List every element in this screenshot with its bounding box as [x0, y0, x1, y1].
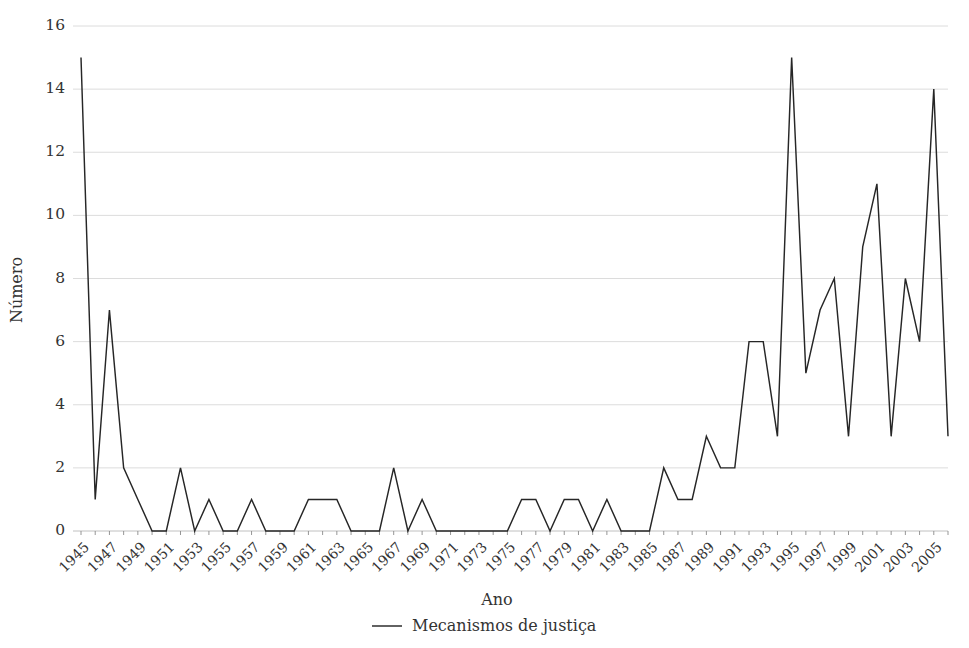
x-tick-label: 1959 — [255, 539, 292, 576]
x-tick-label: 1975 — [482, 539, 519, 576]
x-tick-label: 1973 — [454, 539, 491, 576]
y-axis-tick-labels: 0246810121416 — [45, 16, 65, 539]
x-tick-label: 1955 — [198, 539, 235, 576]
x-tick-label: 1947 — [84, 539, 121, 576]
x-tick-label: 1987 — [653, 539, 690, 576]
x-tick-label: 1961 — [283, 539, 320, 576]
y-tick-label: 6 — [55, 332, 65, 350]
y-tick-label: 14 — [45, 79, 65, 97]
x-tick-label: 1995 — [766, 539, 803, 576]
y-tick-label: 10 — [45, 205, 65, 223]
x-tick-label: 1951 — [141, 539, 178, 576]
x-axis-tick-labels: 1945194719491951195319551957195919611963… — [56, 539, 945, 576]
data-line-mecanismos-de-justica — [81, 58, 948, 531]
x-tick-label: 1991 — [709, 539, 746, 576]
x-tick-label: 1999 — [823, 539, 860, 576]
x-tick-label: 2001 — [852, 539, 889, 576]
chart-container: 0246810121416 19451947194919511953195519… — [0, 0, 969, 648]
x-tick-label: 1983 — [596, 539, 633, 576]
x-tick-label: 1957 — [226, 539, 263, 576]
x-tick-label: 1993 — [738, 539, 775, 576]
y-tick-label: 16 — [45, 16, 65, 34]
x-tick-label: 1977 — [510, 539, 547, 576]
y-tick-label: 12 — [45, 142, 65, 160]
x-tick-label: 1989 — [681, 539, 718, 576]
x-tick-label: 1981 — [567, 539, 604, 576]
x-tick-label: 2003 — [880, 539, 917, 576]
x-tick-label: 1979 — [539, 539, 576, 576]
x-tick-label: 1967 — [368, 539, 405, 576]
y-tick-label: 4 — [55, 395, 65, 413]
x-tick-label: 1963 — [311, 539, 348, 576]
legend: Mecanismos de justiça — [372, 616, 597, 635]
x-axis-tick-marks — [81, 531, 948, 535]
data-series-group — [81, 58, 948, 531]
x-axis-title: Ano — [480, 590, 513, 609]
y-tick-label: 2 — [55, 458, 65, 476]
x-tick-label: 1997 — [795, 539, 832, 576]
x-tick-label: 1985 — [624, 539, 661, 576]
x-tick-label: 1965 — [340, 539, 377, 576]
x-tick-label: 1953 — [169, 539, 206, 576]
x-tick-label: 1949 — [112, 539, 149, 576]
grid-lines — [73, 26, 948, 531]
x-tick-label: 2005 — [908, 539, 945, 576]
y-tick-label: 0 — [55, 521, 65, 539]
line-chart: 0246810121416 19451947194919511953195519… — [0, 0, 969, 648]
legend-label: Mecanismos de justiça — [412, 616, 597, 635]
x-tick-label: 1945 — [56, 539, 93, 576]
y-tick-label: 8 — [55, 269, 65, 287]
x-tick-label: 1969 — [397, 539, 434, 576]
y-axis-title: Número — [7, 257, 26, 323]
x-tick-label: 1971 — [425, 539, 462, 576]
